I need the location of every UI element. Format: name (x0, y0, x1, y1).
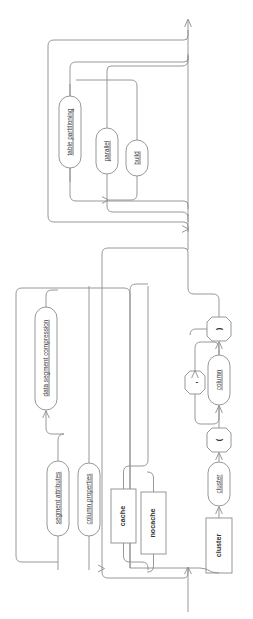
conn-dsc-bottom (46, 410, 60, 434)
node-label-table-partitioning: table partitioning (66, 108, 74, 155)
node-label-nocache: nocache (148, 508, 157, 537)
node-cluster-nonterminal[interactable]: cluster (208, 462, 230, 506)
node-data-segment-compression[interactable]: data segment compression (35, 307, 57, 410)
node-label-column-properties: column properties (85, 474, 93, 525)
node-nocache[interactable]: nocache (141, 492, 166, 554)
conn-paren-close-to-spine (188, 252, 219, 317)
node-label-segment-attributes: segment attributes (54, 472, 62, 525)
node-label-data-segment-compression: data segment compression (42, 319, 50, 396)
node-comma[interactable]: , (185, 371, 205, 394)
arrow-cluster-to-paren-open (216, 453, 223, 463)
node-label-cache: cache (118, 506, 127, 526)
node-column[interactable]: column (208, 355, 230, 405)
node-label-parallel: parallel (103, 141, 111, 162)
conn-paren-close-side (190, 329, 207, 335)
conn-dsc-top (46, 290, 58, 307)
upper-group-split-arrow (182, 226, 189, 233)
upper-group-join-arrow (102, 197, 109, 204)
node-cache[interactable]: cache (111, 489, 136, 543)
conn-nocache-top (148, 472, 154, 492)
node-segment-attributes[interactable]: segment attributes (47, 461, 69, 536)
node-parallel[interactable]: parallel (96, 128, 118, 174)
node-label-column: column (215, 369, 222, 390)
node-paren-open[interactable]: ( (207, 428, 231, 452)
node-label-cluster-terminal: cluster (214, 534, 223, 558)
node-cluster-terminal[interactable]: cluster (206, 518, 232, 573)
node-label-build: build (133, 151, 140, 165)
conn-parallel-top (107, 56, 188, 128)
node-build[interactable]: build (126, 140, 148, 176)
node-label-comma: , (190, 381, 199, 383)
arrow-cluster-term-to-nonterm (216, 507, 223, 519)
node-table-partitioning[interactable]: table partitioning (59, 96, 81, 168)
node-label-cluster-nonterminal: cluster (215, 474, 222, 494)
arrow-column-to-paren-close (216, 342, 223, 356)
conn-sa-top (58, 434, 64, 461)
conn-build-bottom (109, 176, 137, 200)
diagram-canvas: table partitioning parallel build data s… (0, 0, 253, 619)
railroad-diagram: table partitioning parallel build data s… (0, 0, 253, 619)
node-paren-close[interactable]: ) (207, 317, 231, 341)
lower-group-join-arrow (98, 565, 105, 572)
conn-parallel-bottom (107, 174, 188, 222)
conn-cache-top (124, 286, 149, 489)
node-column-properties[interactable]: column properties (78, 463, 100, 536)
